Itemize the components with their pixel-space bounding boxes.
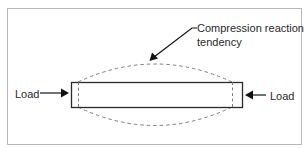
left-load-label: Load [15, 88, 39, 100]
annotation-label-line2: tendency [197, 36, 242, 48]
right-load-label: Load [270, 90, 294, 102]
annotation-label-line1: Compression reaction [197, 22, 304, 34]
diagram: Load Load Compression reaction tendency [0, 0, 307, 148]
column-member [72, 83, 243, 108]
diagram-canvas: Load Load Compression reaction tendency [0, 0, 307, 148]
